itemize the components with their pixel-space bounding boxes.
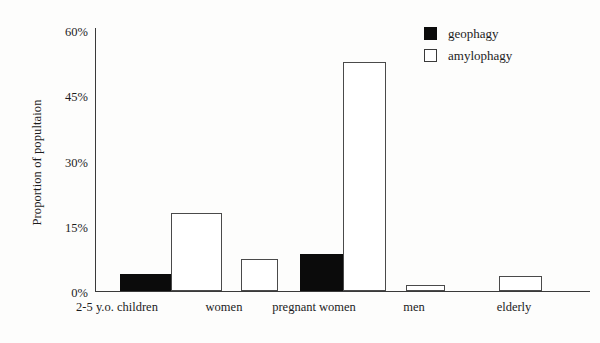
- y-tick-label-15: 15%: [44, 222, 88, 235]
- bar-amylophagy-women: [241, 259, 278, 291]
- legend-item-geophagy: geophagy: [424, 22, 584, 44]
- y-axis-tick-labels: 60% 45% 30% 15% 0%: [44, 0, 88, 343]
- legend: geophagy amylophagy: [424, 22, 584, 66]
- bar-amylophagy-pregnant-women: [343, 62, 386, 291]
- y-tick-label-0: 0%: [44, 287, 88, 300]
- x-tick-label-women: women: [192, 300, 256, 315]
- x-tick-label-children: 2-5 y.o. children: [57, 300, 177, 315]
- x-tick-label-elderly: elderly: [478, 300, 550, 315]
- y-axis-line: [95, 28, 96, 292]
- x-axis-tick-labels: 2-5 y.o. children women pregnant women m…: [0, 300, 600, 330]
- y-tick-label-60: 60%: [44, 26, 88, 39]
- y-axis-title: Proportion of popultaion: [30, 48, 45, 278]
- legend-swatch-filled-icon: [424, 27, 437, 40]
- x-tick-label-pregnant-women: pregnant women: [254, 300, 374, 315]
- bar-amylophagy-elderly: [499, 276, 542, 291]
- bar-chart: Proportion of popultaion 60% 45% 30% 15%…: [0, 0, 600, 343]
- bar-geophagy-children: [120, 274, 171, 291]
- x-axis-line: [95, 291, 590, 292]
- y-tick-label-45: 45%: [44, 91, 88, 104]
- bar-amylophagy-children: [171, 213, 222, 291]
- bar-geophagy-pregnant-women: [300, 254, 343, 291]
- legend-item-amylophagy: amylophagy: [424, 44, 584, 66]
- legend-label-geophagy: geophagy: [448, 27, 499, 40]
- bar-amylophagy-men: [406, 285, 445, 291]
- legend-label-amylophagy: amylophagy: [448, 49, 512, 62]
- x-tick-label-men: men: [388, 300, 440, 315]
- y-tick-label-30: 30%: [44, 157, 88, 170]
- legend-swatch-hollow-icon: [424, 49, 437, 62]
- plot-area: [95, 28, 590, 292]
